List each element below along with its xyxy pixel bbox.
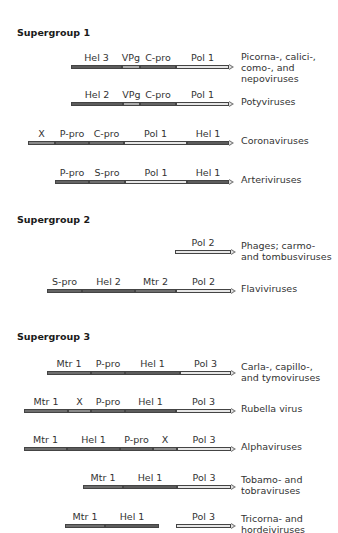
- domain-segment-pro: [47, 289, 82, 293]
- domain-label: Hel 1: [81, 434, 106, 445]
- domain-label: S-pro: [95, 167, 120, 178]
- arrowhead-fill: [229, 102, 232, 106]
- arrowhead-fill: [229, 141, 232, 145]
- domain-label: Mtr 1: [73, 511, 98, 522]
- domain-segment-pol: [175, 250, 231, 254]
- domain-label: P-pro: [124, 434, 149, 445]
- supergroup-title: Supergroup 2: [17, 214, 90, 225]
- domain-segment-hel: [71, 65, 122, 69]
- domain-label: P-pro: [60, 128, 85, 139]
- domain-label: Hel 2: [96, 276, 121, 287]
- domain-label: Mtr 1: [91, 472, 116, 483]
- domain-label: Pol 2: [192, 237, 215, 248]
- domain-label: Pol 3: [193, 472, 216, 483]
- domain-segment-mtr: [65, 524, 105, 528]
- supergroup-title: Supergroup 1: [17, 27, 90, 38]
- arrowhead-fill: [231, 250, 234, 254]
- domain-segment-pro: [140, 65, 176, 69]
- domain-label: VPg: [122, 89, 140, 100]
- domain-label: S-pro: [52, 276, 77, 287]
- domain-label: C-pro: [145, 89, 171, 100]
- domain-segment-hel: [123, 485, 177, 489]
- domain-label: Pol 1: [191, 52, 214, 63]
- domain-label: X: [162, 434, 169, 445]
- domain-segment-pro: [120, 447, 153, 451]
- domain-label: Hel 1: [140, 358, 165, 369]
- arrowhead-fill: [231, 371, 234, 375]
- virus-family-label: Phages; carmo- and tombusviruses: [241, 240, 332, 262]
- domain-segment-hel: [82, 289, 135, 293]
- arrowhead-fill: [229, 65, 232, 69]
- domain-label: C-pro: [145, 52, 171, 63]
- domain-segment-hel: [125, 409, 176, 413]
- domain-segment-pro: [91, 409, 125, 413]
- domain-label: Hel 1: [196, 167, 221, 178]
- virus-family-label: Arteriviruses: [241, 174, 301, 185]
- domain-segment-vpg: [122, 65, 140, 69]
- virus-family-label: Alphaviruses: [241, 441, 302, 452]
- domain-label: Pol 3: [193, 434, 216, 445]
- domain-label: Hel 3: [84, 52, 109, 63]
- domain-label: Pol 1: [144, 128, 167, 139]
- domain-label: Pol 1: [145, 167, 168, 178]
- domain-label: X: [38, 128, 45, 139]
- domain-segment-hel: [187, 180, 229, 184]
- virus-family-label: Tobamo- and tobraviruses: [241, 474, 302, 496]
- arrowhead-fill: [231, 524, 234, 528]
- domain-segment-mtr: [135, 289, 176, 293]
- arrowhead-fill: [231, 485, 234, 489]
- arrowhead-fill: [231, 409, 234, 413]
- domain-label: Hel 1: [120, 511, 145, 522]
- domain-segment-x: [153, 447, 177, 451]
- domain-segment-mtr: [47, 371, 91, 375]
- domain-label: P-pro: [96, 358, 121, 369]
- domain-segment-pol: [177, 447, 231, 451]
- domain-segment-hel: [67, 447, 120, 451]
- domain-segment-pol: [176, 65, 229, 69]
- domain-segment-pol: [176, 409, 231, 413]
- domain-segment-mtr: [89, 141, 124, 145]
- domain-label: Mtr 1: [33, 434, 58, 445]
- domain-label: Mtr 2: [143, 276, 168, 287]
- domain-segment-mtr: [83, 485, 123, 489]
- domain-segment-pol: [176, 524, 231, 528]
- virus-family-label: Picorna-, calici-, como-, and nepoviruse…: [241, 51, 316, 84]
- domain-segment-pol: [124, 141, 187, 145]
- arrowhead-fill: [231, 447, 234, 451]
- supergroup-title: Supergroup 3: [17, 331, 90, 342]
- domain-segment-pro: [91, 371, 125, 375]
- domain-label: Hel 1: [138, 472, 163, 483]
- domain-segment-hel: [125, 371, 180, 375]
- domain-segment-pro: [140, 102, 176, 106]
- domain-segment-mtr: [24, 409, 68, 413]
- domain-label: VPg: [122, 52, 140, 63]
- domain-segment-pol: [176, 289, 231, 293]
- domain-segment-pro: [55, 180, 89, 184]
- virus-family-label: Flaviviruses: [241, 283, 297, 294]
- domain-segment-mtr: [89, 180, 125, 184]
- domain-segment-pro: [55, 141, 89, 145]
- domain-label: Pol 2: [192, 276, 215, 287]
- virus-family-label: Coronaviruses: [241, 135, 309, 146]
- domain-label: Pol 3: [192, 396, 215, 407]
- domain-label: X: [76, 396, 83, 407]
- domain-label: Hel 1: [196, 128, 221, 139]
- domain-segment-mtr: [24, 447, 67, 451]
- arrowhead-fill: [231, 289, 234, 293]
- domain-label: C-pro: [94, 128, 120, 139]
- domain-segment-pol: [176, 102, 229, 106]
- domain-segment-vpg: [123, 102, 140, 106]
- virus-family-label: Potyviruses: [241, 96, 295, 107]
- domain-label: P-pro: [96, 396, 121, 407]
- arrowhead-fill: [229, 180, 232, 184]
- virus-family-label: Tricorna- and hordeiviruses: [241, 513, 305, 533]
- virus-family-label: Carla-, capillo-, and tymoviruses: [241, 361, 320, 383]
- domain-label: Hel 1: [138, 396, 163, 407]
- domain-segment-x: [28, 141, 55, 145]
- domain-segment-hel: [105, 524, 159, 528]
- domain-label: Pol 1: [191, 89, 214, 100]
- domain-label: Pol 3: [194, 358, 217, 369]
- domain-label: Mtr 1: [34, 396, 59, 407]
- domain-segment-hel: [187, 141, 229, 145]
- domain-label: Hel 2: [85, 89, 110, 100]
